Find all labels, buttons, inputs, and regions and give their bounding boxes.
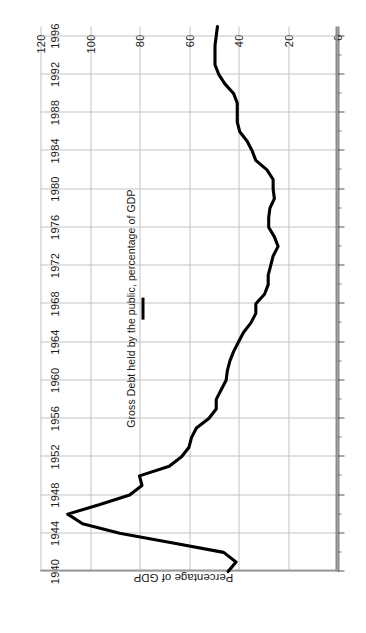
x-tick-major xyxy=(337,149,344,150)
legend-line-swatch xyxy=(141,297,144,319)
x-tick-major xyxy=(337,73,344,74)
x-tick-major xyxy=(337,570,344,571)
x-tick-minor xyxy=(337,207,341,208)
x-tick-minor xyxy=(337,551,341,552)
x-tick-minor xyxy=(337,130,341,131)
x-tick-minor xyxy=(337,436,341,437)
series-line-0 xyxy=(67,26,277,571)
x-tick-major xyxy=(337,341,344,342)
y-axis-title: Percentage of GDP xyxy=(133,571,233,583)
x-tick-minor xyxy=(337,474,341,475)
x-tick-minor xyxy=(337,513,341,514)
x-tick-major xyxy=(337,455,344,456)
x-tick-minor xyxy=(337,54,341,55)
x-tick-major xyxy=(337,111,344,112)
plot-area: 0204060801001201940194419481952195619601… xyxy=(40,26,337,571)
x-tick-minor xyxy=(337,321,341,322)
x-tick-major xyxy=(337,417,344,418)
x-tick-major xyxy=(337,264,344,265)
chart-canvas: 0204060801001201940194419481952195619601… xyxy=(0,0,366,633)
x-tick-major xyxy=(337,188,344,189)
x-tick-major xyxy=(337,379,344,380)
x-tick-minor xyxy=(337,245,341,246)
x-tick-major xyxy=(337,302,344,303)
chart-legend: Gross Debt held by the public, percentag… xyxy=(124,189,144,427)
x-tick-major xyxy=(337,494,344,495)
legend-label: Gross Debt held by the public, percentag… xyxy=(124,189,136,427)
x-tick-major xyxy=(337,532,344,533)
x-tick-minor xyxy=(337,168,341,169)
figure-root: 0204060801001201940194419481952195619601… xyxy=(0,0,366,633)
x-tick-major xyxy=(337,226,344,227)
x-tick-major xyxy=(337,35,344,36)
x-tick-minor xyxy=(337,92,341,93)
x-tick-minor xyxy=(337,398,341,399)
x-tick-minor xyxy=(337,283,341,284)
x-tick-minor xyxy=(337,360,341,361)
series-layer xyxy=(40,26,337,571)
